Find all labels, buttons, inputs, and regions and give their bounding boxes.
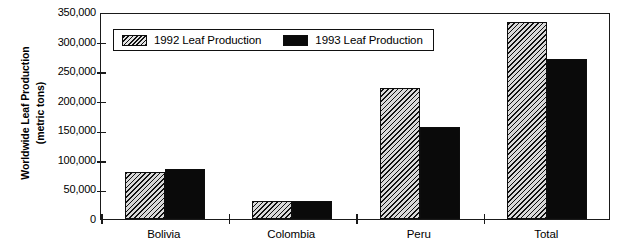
y-axis-tick-label: 300,000 bbox=[38, 37, 96, 48]
chart-legend: 1992 Leaf Production 1993 Leaf Productio… bbox=[113, 29, 434, 51]
legend-label-1993: 1993 Leaf Production bbox=[315, 34, 422, 46]
bar-peru-1992 bbox=[380, 88, 420, 219]
y-axis-tick-mark bbox=[97, 161, 106, 163]
x-axis-label-total: Total bbox=[483, 228, 611, 241]
x-axis-label-peru: Peru bbox=[355, 228, 483, 241]
legend-entry-1993: 1993 Leaf Production bbox=[283, 34, 422, 46]
hatched-swatch-icon bbox=[122, 35, 147, 46]
x-axis-tick-mark-origin bbox=[101, 214, 103, 224]
y-axis-tick-label: 0 bbox=[38, 214, 96, 225]
x-axis-tick-mark bbox=[229, 214, 231, 224]
legend-label-1992: 1992 Leaf Production bbox=[154, 34, 261, 46]
y-axis-tick-mark bbox=[97, 132, 106, 134]
legend-entry-1992: 1992 Leaf Production bbox=[122, 34, 261, 46]
y-axis-tick-labels: 050,000100,000150,000200,000250,000300,0… bbox=[36, 0, 96, 249]
y-axis-tick-label: 50,000 bbox=[38, 184, 96, 195]
bar-colombia-1993 bbox=[292, 201, 332, 219]
bar-bolivia-1993 bbox=[165, 169, 205, 219]
y-axis-tick-label: 200,000 bbox=[38, 96, 96, 107]
y-axis-title-line-1: Worldwide Leaf Production bbox=[19, 46, 31, 179]
y-axis-tick-label: 150,000 bbox=[38, 125, 96, 136]
x-axis-label-colombia: Colombia bbox=[228, 228, 356, 241]
x-axis-tick-mark bbox=[356, 214, 358, 224]
y-axis-tick-label: 350,000 bbox=[38, 7, 96, 18]
y-axis-tick-label: 250,000 bbox=[38, 66, 96, 77]
bar-peru-1993 bbox=[420, 127, 460, 219]
y-axis-tick-mark bbox=[97, 102, 106, 104]
x-axis-label-bolivia: Bolivia bbox=[100, 228, 228, 241]
bar-chart: Worldwide Leaf Production (metric tons) … bbox=[0, 0, 619, 249]
solid-black-swatch-icon bbox=[283, 35, 308, 46]
y-axis-tick-mark bbox=[97, 43, 106, 45]
y-axis-tick-mark bbox=[97, 72, 106, 74]
bar-colombia-1992 bbox=[252, 201, 292, 219]
y-axis-tick-mark bbox=[97, 191, 106, 193]
x-axis-tick-mark bbox=[484, 214, 486, 224]
y-axis-tick-label: 100,000 bbox=[38, 155, 96, 166]
bar-total-1992 bbox=[507, 22, 547, 219]
x-axis-tick-labels: BoliviaColombiaPeruTotal bbox=[100, 228, 610, 248]
plot-area: 1992 Leaf Production 1993 Leaf Productio… bbox=[100, 13, 610, 220]
bar-bolivia-1992 bbox=[125, 172, 165, 219]
bar-total-1993 bbox=[547, 59, 587, 219]
